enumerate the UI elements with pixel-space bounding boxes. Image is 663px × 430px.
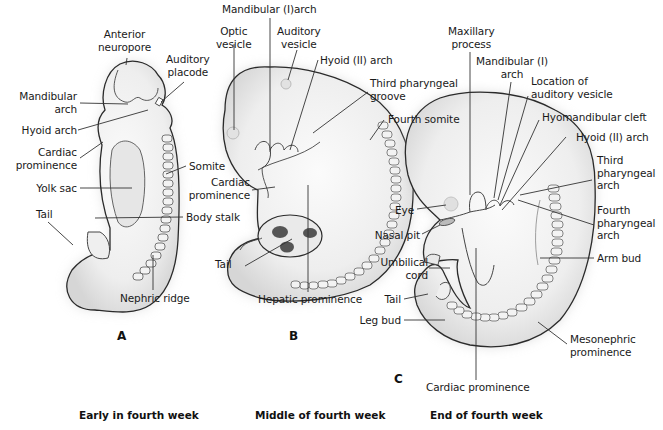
label-hyoid-arch-c: Hyoid (II) arch	[576, 131, 649, 144]
label-arm-bud: Arm bud	[597, 252, 641, 265]
label-optic-vesicle: Optic vesicle	[216, 25, 252, 50]
label-cardiac-prominence-b: Cardiac prominence	[180, 176, 250, 201]
label-hepatic-prominence: Hepatic prominence	[258, 293, 362, 306]
label-fourth-somite: Fourth somite	[388, 113, 460, 126]
label-cardiac-prominence-a: Cardiac prominence	[6, 146, 77, 171]
label-hyoid-arch-b: Hyoid (II) arch	[320, 54, 393, 67]
panel-letter-a: A	[117, 329, 126, 343]
embryo-c	[405, 92, 595, 347]
label-cardiac-prominence-c: Cardiac prominence	[426, 381, 530, 394]
label-tail-c: Tail	[370, 293, 401, 306]
label-leg-bud: Leg bud	[350, 314, 401, 327]
label-auditory-vesicle: Auditory vesicle	[277, 25, 321, 50]
embryo-a	[67, 61, 179, 312]
panel-letter-b: B	[289, 329, 298, 343]
caption-panel-c: End of fourth week	[430, 409, 543, 421]
label-mandibular-arch-b: Mandibular (I)arch	[222, 3, 317, 16]
label-auditory-placode: Auditory placode	[166, 53, 210, 78]
embryo-diagram: Anterior neuropore Auditory placode Mand…	[0, 0, 663, 430]
label-location-auditory-vesicle: Location of auditory vesicle	[531, 75, 613, 100]
label-maxillary-process: Maxillary process	[448, 25, 495, 50]
label-nasal-pit: Nasal pit	[366, 229, 420, 242]
label-hyomandibular-cleft: Hyomandibular cleft	[542, 111, 647, 124]
label-somite: Somite	[189, 160, 225, 173]
label-third-pharyngeal-groove: Third pharyngeal groove	[370, 77, 458, 102]
label-umbilical-cord: Umbilical cord	[360, 256, 428, 281]
label-mesonephric-prominence: Mesonephric prominence	[570, 333, 636, 358]
caption-panel-a: Early in fourth week	[79, 409, 199, 421]
label-hyoid-arch-a: Hyoid arch	[10, 124, 77, 137]
label-tail-a: Tail	[36, 208, 53, 221]
label-nephric-ridge: Nephric ridge	[120, 292, 190, 305]
label-eye: Eye	[380, 204, 414, 217]
label-body-stalk: Body stalk	[186, 211, 240, 224]
label-anterior-neuropore: Anterior neuropore	[98, 28, 151, 53]
label-third-pharyngeal-arch: Third pharyngeal arch	[597, 154, 655, 192]
label-mandibular-arch-a: Mandibular arch	[14, 90, 77, 115]
caption-panel-b: Middle of fourth week	[255, 409, 385, 421]
label-yolk-sac: Yolk sac	[10, 182, 77, 195]
label-fourth-pharyngeal-arch: Fourth pharyngeal arch	[597, 204, 655, 242]
label-tail-b: Tail	[215, 258, 232, 271]
panel-letter-c: C	[394, 372, 403, 386]
